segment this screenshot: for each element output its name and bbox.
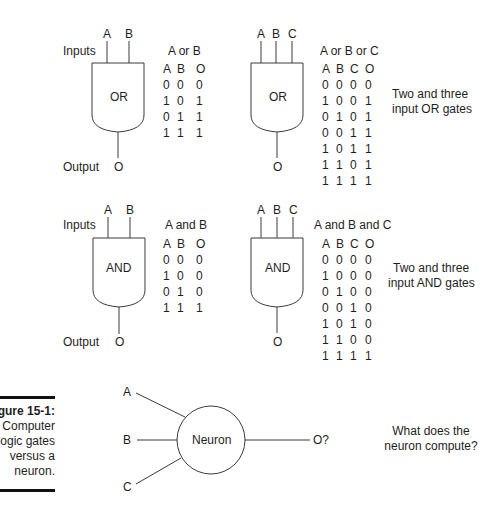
and-truth-table-two-input: A and B A B O 0 0 0 1 0 0 0 1 0 1 bbox=[163, 218, 207, 315]
table-row: 1 1 0 0 bbox=[322, 333, 372, 347]
svg-text:0: 0 bbox=[196, 285, 203, 299]
svg-text:1: 1 bbox=[350, 317, 357, 331]
question-line-1: What does the bbox=[392, 424, 470, 438]
output-label-o: O bbox=[114, 160, 123, 174]
neuron-section: A B C Neuron O? What does the neuron com… bbox=[123, 385, 478, 494]
svg-text:0: 0 bbox=[365, 285, 372, 299]
svg-text:1: 1 bbox=[336, 158, 343, 172]
svg-text:1: 1 bbox=[322, 174, 329, 188]
svg-text:1: 1 bbox=[196, 126, 203, 140]
svg-text:0: 0 bbox=[177, 78, 184, 92]
neuron-input-wire-c bbox=[136, 458, 181, 484]
svg-text:0: 0 bbox=[350, 333, 357, 347]
or-truth-table-two-input: A or B A B O 0 0 0 1 0 1 0 1 1 1 bbox=[163, 44, 205, 140]
table-row: 1 1 1 1 bbox=[322, 174, 372, 188]
svg-text:0: 0 bbox=[350, 269, 357, 283]
table-row: 0 0 1 1 bbox=[322, 126, 372, 140]
svg-text:0: 0 bbox=[350, 94, 357, 108]
svg-text:1: 1 bbox=[177, 285, 184, 299]
neuron-input-label-c: C bbox=[123, 480, 132, 494]
and-gate-three-input: A B C AND O bbox=[251, 203, 303, 349]
svg-text:1: 1 bbox=[163, 269, 170, 283]
header-o: O bbox=[196, 62, 205, 76]
svg-text:1: 1 bbox=[336, 285, 343, 299]
svg-text:0: 0 bbox=[177, 269, 184, 283]
svg-text:0: 0 bbox=[350, 285, 357, 299]
table-row: 0 1 0 1 bbox=[322, 110, 372, 124]
svg-text:1: 1 bbox=[196, 94, 203, 108]
table-header: A B C O bbox=[322, 62, 374, 76]
svg-text:0: 0 bbox=[322, 253, 329, 267]
or-description: Two and three input OR gates bbox=[392, 87, 472, 116]
figure-number: Figure 15-1: bbox=[0, 404, 55, 418]
svg-text:1: 1 bbox=[196, 110, 203, 124]
or-gate-two-input: A B OR O bbox=[92, 27, 144, 174]
svg-text:1: 1 bbox=[177, 110, 184, 124]
output-label-o: O bbox=[273, 160, 282, 174]
svg-text:0: 0 bbox=[322, 126, 329, 140]
logic-gates-vs-neuron-figure: Inputs Output A B OR O A or B A B O 0 0 … bbox=[0, 0, 494, 511]
svg-text:0: 0 bbox=[196, 78, 203, 92]
svg-text:1: 1 bbox=[336, 174, 343, 188]
gate-label: AND bbox=[106, 261, 132, 275]
svg-text:1: 1 bbox=[322, 142, 329, 156]
gate-label: OR bbox=[269, 90, 287, 104]
svg-text:0: 0 bbox=[350, 253, 357, 267]
svg-text:1: 1 bbox=[365, 126, 372, 140]
svg-text:B: B bbox=[336, 237, 344, 251]
description-line-1: Two and three bbox=[393, 261, 469, 275]
svg-text:0: 0 bbox=[336, 94, 343, 108]
header-a: A bbox=[163, 62, 171, 76]
gate-label: OR bbox=[110, 90, 128, 104]
input-label-b: B bbox=[273, 203, 281, 217]
table-row: 0 0 0 0 bbox=[322, 253, 372, 267]
inputs-label: Inputs bbox=[63, 218, 96, 232]
input-label-a: A bbox=[104, 203, 112, 217]
svg-text:1: 1 bbox=[322, 158, 329, 172]
description-line-1: Two and three bbox=[392, 87, 468, 101]
svg-text:1: 1 bbox=[365, 349, 372, 363]
svg-text:A: A bbox=[322, 62, 330, 76]
svg-text:1: 1 bbox=[365, 142, 372, 156]
svg-text:0: 0 bbox=[365, 333, 372, 347]
neuron-input-label-a: A bbox=[123, 385, 131, 399]
svg-text:1: 1 bbox=[322, 333, 329, 347]
svg-text:0: 0 bbox=[322, 110, 329, 124]
description-line-2: input AND gates bbox=[388, 276, 475, 290]
svg-text:0: 0 bbox=[365, 78, 372, 92]
svg-text:0: 0 bbox=[336, 253, 343, 267]
table-row: 1 1 1 bbox=[163, 126, 203, 140]
svg-text:0: 0 bbox=[365, 301, 372, 315]
svg-text:1: 1 bbox=[350, 301, 357, 315]
svg-text:1: 1 bbox=[365, 110, 372, 124]
table-header: A B O bbox=[163, 62, 205, 76]
output-label-o: O bbox=[115, 335, 124, 349]
table-header: A B O bbox=[163, 237, 205, 251]
svg-text:1: 1 bbox=[336, 110, 343, 124]
svg-text:0: 0 bbox=[336, 126, 343, 140]
svg-text:0: 0 bbox=[350, 110, 357, 124]
svg-text:0: 0 bbox=[336, 301, 343, 315]
svg-text:0: 0 bbox=[196, 269, 203, 283]
table-row: 1 0 0 bbox=[163, 269, 203, 283]
table-title: A or B bbox=[168, 44, 201, 58]
table-row: 1 0 0 1 bbox=[322, 94, 372, 108]
neuron-output-label: O? bbox=[313, 433, 329, 447]
svg-text:0: 0 bbox=[322, 301, 329, 315]
gate-label: AND bbox=[265, 261, 291, 275]
neuron-input-label-b: B bbox=[123, 433, 131, 447]
svg-text:1: 1 bbox=[196, 301, 203, 315]
svg-text:0: 0 bbox=[336, 78, 343, 92]
table-row: 1 0 0 0 bbox=[322, 269, 372, 283]
svg-text:1: 1 bbox=[177, 126, 184, 140]
table-row: 0 1 0 bbox=[163, 285, 203, 299]
table-header: A B C O bbox=[322, 237, 374, 251]
svg-text:1: 1 bbox=[365, 158, 372, 172]
table-row: 0 0 1 0 bbox=[322, 301, 372, 315]
svg-text:1: 1 bbox=[350, 142, 357, 156]
or-gate-three-input: A B C OR O bbox=[251, 27, 303, 174]
caption-bottom-rule bbox=[0, 489, 55, 492]
table-row: 1 1 1 bbox=[163, 301, 203, 315]
svg-text:C: C bbox=[350, 237, 359, 251]
table-row: 1 0 1 1 bbox=[322, 142, 372, 156]
